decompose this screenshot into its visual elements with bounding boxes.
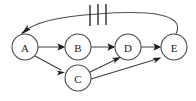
edge-E-to-A-path	[22, 13, 178, 34]
node-A[interactable]: A	[12, 34, 38, 60]
edge-C-to-D-path	[90, 59, 117, 72]
edge-A-to-C-path	[35, 56, 61, 70]
edge-A-to-B	[38, 43, 65, 50]
edge-E-to-A-arrowhead	[21, 25, 30, 35]
node-E[interactable]: E	[161, 34, 187, 60]
edge-E-to-A	[21, 13, 177, 35]
node-D[interactable]: D	[115, 34, 141, 60]
edge-B-to-D	[91, 43, 115, 50]
edge-A-to-C	[35, 56, 65, 76]
edge-C-to-E-arrowhead	[152, 58, 161, 64]
node-A-label: A	[21, 42, 29, 54]
directed-graph: A B C D E	[0, 0, 196, 101]
diagram-canvas: A B C D E	[0, 0, 196, 101]
edge-A-to-C-arrowhead	[56, 71, 65, 76]
node-D-label: D	[124, 42, 132, 54]
edge-C-to-E	[91, 58, 161, 79]
node-B-label: B	[74, 42, 81, 54]
node-C[interactable]: C	[65, 65, 91, 91]
edge-D-to-E	[141, 43, 161, 50]
arc-tick-marks	[90, 4, 106, 26]
node-E-label: E	[171, 42, 178, 54]
edge-C-to-E-path	[91, 59, 157, 79]
node-B[interactable]: B	[65, 34, 91, 60]
edge-C-to-D	[90, 57, 121, 72]
node-C-label: C	[74, 73, 81, 85]
